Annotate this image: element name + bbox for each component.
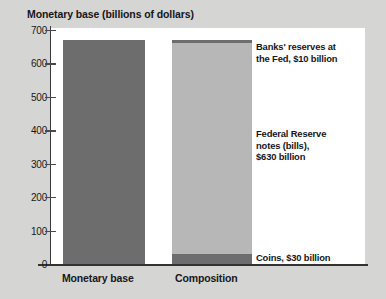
annotation-line: the Fed, $10 billion — [256, 53, 337, 65]
annotation-line: Coins, $30 billion — [256, 252, 330, 264]
y-axis-tick-label: 100 — [11, 225, 47, 236]
y-axis-tick-label: 0 — [11, 259, 47, 270]
annotation-line: $630 billion — [256, 151, 326, 163]
annotation-federal-reserve-notes: Federal Reserve notes (bills), $630 bill… — [256, 128, 326, 163]
annotation-banks-reserves: Banks' reserves at the Fed, $10 billion — [256, 41, 337, 64]
y-axis-tick-mark — [45, 231, 56, 232]
annotation-line: Federal Reserve — [256, 128, 326, 140]
y-axis-tick-mark — [45, 30, 56, 31]
segment-coins — [172, 254, 252, 264]
bar-composition-stack — [172, 40, 252, 264]
y-axis-tick-mark — [45, 63, 56, 64]
chart-figure: Monetary base (billions of dollars) 0100… — [0, 0, 386, 299]
chart-title: Monetary base (billions of dollars) — [27, 8, 194, 20]
x-axis-line — [38, 264, 368, 266]
y-axis-tick-label: 700 — [11, 25, 47, 36]
y-axis-tick-label: 600 — [11, 58, 47, 69]
y-axis-tick-label: 300 — [11, 158, 47, 169]
bar-monetary-base — [63, 40, 145, 264]
y-axis-tick-label: 400 — [11, 125, 47, 136]
annotation-line: Banks' reserves at — [256, 41, 337, 53]
y-axis-tick-mark — [45, 97, 56, 98]
y-axis-line — [50, 26, 51, 265]
y-axis-tick-label: 500 — [11, 91, 47, 102]
y-axis-tick-mark — [45, 130, 56, 131]
category-label-monetary-base: Monetary base — [62, 272, 134, 284]
category-label-composition: Composition — [175, 272, 238, 284]
y-axis-tick-mark — [45, 164, 56, 165]
y-axis-tick-mark — [45, 197, 56, 198]
annotation-coins: Coins, $30 billion — [256, 252, 330, 264]
annotation-line: notes (bills), — [256, 140, 326, 152]
y-axis-tick-label: 200 — [11, 192, 47, 203]
segment-federal-reserve-notes — [172, 43, 252, 254]
